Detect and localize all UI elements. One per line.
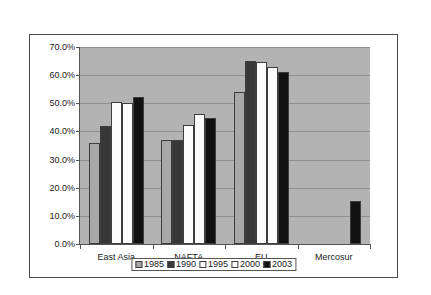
bar-eu-1985 [234, 92, 245, 244]
bar-east-asia-1985 [89, 143, 100, 244]
x-axis-tick-mark [298, 244, 299, 249]
y-axis-tick-label: 10.0% [49, 211, 75, 220]
x-axis-label-east-asia: East Asia [97, 253, 135, 262]
bar-eu-2003 [278, 72, 289, 244]
x-axis-tick-mark [225, 244, 226, 249]
legend-item-1995: 1995 [199, 260, 228, 269]
y-axis-tick-label: 60.0% [49, 71, 75, 80]
legend-label-1995: 1995 [208, 260, 228, 269]
legend-swatch-1985 [135, 261, 142, 268]
legend-swatch-2000 [231, 261, 238, 268]
y-axis-tick-label: 50.0% [49, 99, 75, 108]
y-axis-tick-label: 40.0% [49, 127, 75, 136]
legend-swatch-1990 [167, 261, 174, 268]
x-axis-tick-mark [370, 244, 371, 249]
bar-nafta-1985 [161, 140, 172, 244]
bar-eu-1990 [245, 61, 256, 244]
bar-east-asia-2000 [122, 103, 133, 244]
y-axis-tick-label: 70.0% [49, 43, 75, 52]
bar-nafta-1990 [172, 140, 183, 244]
bar-group [225, 47, 298, 244]
chart-container: 0.0%10.0%20.0%30.0%40.0%50.0%60.0%70.0% … [29, 34, 398, 278]
bar-group [80, 47, 153, 244]
legend-swatch-1995 [199, 261, 206, 268]
bar-east-asia-1990 [100, 126, 111, 244]
bar-nafta-2000 [194, 114, 205, 244]
bar-group [153, 47, 226, 244]
bar-mercosur-2003 [350, 201, 361, 244]
legend-label-1985: 1985 [144, 260, 164, 269]
bar-eu-2000 [267, 67, 278, 244]
x-axis-label-mercosur: Mercosur [315, 253, 353, 262]
legend-label-2003: 2003 [272, 260, 292, 269]
y-axis-tick-label: 30.0% [49, 155, 75, 164]
y-axis-tick-label: 0.0% [54, 240, 75, 249]
bar-group [298, 47, 371, 244]
bar-nafta-2003 [205, 118, 216, 244]
legend-item-2000: 2000 [231, 260, 260, 269]
bar-east-asia-1995 [111, 102, 122, 244]
x-axis-tick-mark [153, 244, 154, 249]
plot-area: 0.0%10.0%20.0%30.0%40.0%50.0%60.0%70.0% … [79, 47, 370, 245]
legend-item-2003: 2003 [263, 260, 292, 269]
legend-label-1990: 1990 [176, 260, 196, 269]
x-axis-tick-mark [80, 244, 81, 249]
bar-nafta-1995 [183, 125, 194, 244]
legend-swatch-2003 [263, 261, 270, 268]
y-axis-tick-label: 20.0% [49, 183, 75, 192]
bar-eu-1995 [256, 62, 267, 244]
legend-item-1990: 1990 [167, 260, 196, 269]
legend-label-2000: 2000 [240, 260, 260, 269]
bar-east-asia-2003 [133, 97, 144, 244]
legend-item-1985: 1985 [135, 260, 164, 269]
chart-legend: 19851990199520002003 [131, 258, 296, 271]
